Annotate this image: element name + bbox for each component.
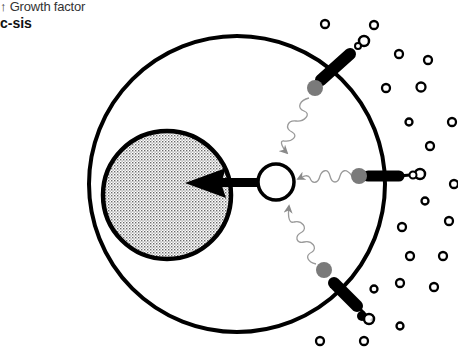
receptor-ball-right <box>351 168 367 184</box>
receptor-bottom <box>316 262 374 324</box>
receptor-ball-bottom <box>316 262 332 278</box>
wave-top <box>281 98 309 153</box>
wave-right <box>298 171 352 183</box>
nucleus <box>103 131 231 259</box>
signal-hub <box>258 164 294 200</box>
receptor-top <box>307 36 369 96</box>
cell-diagram <box>0 0 458 354</box>
receptor-right <box>351 168 425 184</box>
wave-bottom <box>289 206 316 264</box>
receptor-ball-top <box>307 80 323 96</box>
